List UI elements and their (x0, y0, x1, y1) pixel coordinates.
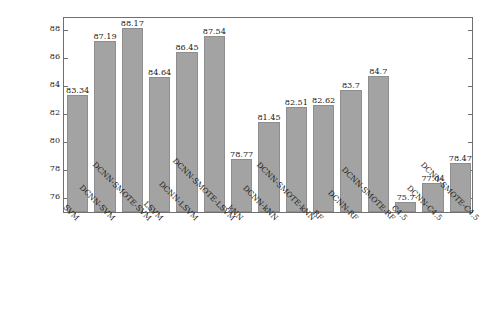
bar-value-label: 87.19 (93, 31, 116, 41)
y-tick-mark-mirror (468, 30, 472, 31)
bar-value-label: 84.7 (369, 66, 387, 76)
y-tick-label: 84 (50, 80, 60, 89)
y-tick-mark (64, 30, 68, 31)
y-tick-label: 78 (50, 164, 60, 173)
bar-value-label: 84.64 (148, 67, 171, 77)
bar-value-label: 81.45 (257, 112, 280, 122)
bar-value-label: 82.51 (285, 97, 308, 107)
y-tick-mark-mirror (468, 142, 472, 143)
bar-value-label: 83.34 (66, 85, 89, 95)
bar-value-label: 78.77 (230, 149, 253, 159)
bar-value-label: 78.47 (449, 153, 472, 163)
bar-value-label: 86.45 (175, 42, 198, 52)
bar[interactable]: 83.7 (340, 90, 361, 212)
bar-value-label: 83.7 (342, 80, 360, 90)
y-tick-label: 86 (50, 52, 60, 61)
y-tick-label: 80 (50, 136, 60, 145)
bar[interactable]: 86.45 (176, 52, 197, 212)
y-tick-label: 76 (50, 192, 60, 201)
bar[interactable]: 88.17 (122, 28, 143, 212)
y-tick-mark-mirror (468, 114, 472, 115)
bar-value-label: 82.62 (312, 95, 335, 105)
y-tick-mark (64, 58, 68, 59)
y-tick-label: 82 (50, 108, 60, 117)
y-tick-mark-mirror (468, 86, 472, 87)
bar-chart-figure: Accuracy mean(%) 76788082848688 83.3487.… (0, 0, 497, 314)
bar-value-label: 87.54 (203, 26, 226, 36)
y-tick-label: 88 (50, 24, 60, 33)
y-tick-mark-mirror (468, 58, 472, 59)
bar-value-label: 88.17 (121, 18, 144, 28)
